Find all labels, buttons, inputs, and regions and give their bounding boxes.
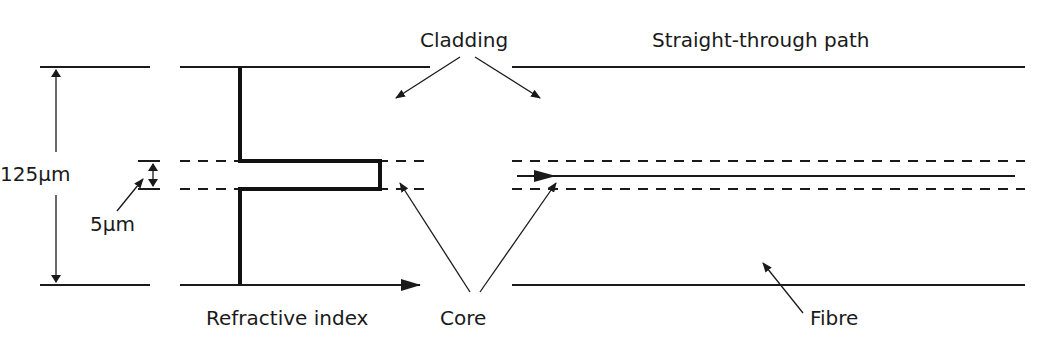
core-annotation: Core xyxy=(400,183,556,330)
cladding-arrow-left-icon xyxy=(396,57,460,98)
fibre-pointer-arrow-icon xyxy=(763,263,803,313)
straight-through-path-label: Straight-through path xyxy=(652,28,869,52)
refractive-index-label: Refractive index xyxy=(206,306,369,330)
light-direction-arrow-icon xyxy=(534,170,556,182)
cladding-label: Cladding xyxy=(420,28,508,52)
fibre-section: Straight-through path Fibre xyxy=(512,28,1025,330)
core-dim-pointer-icon xyxy=(117,179,143,211)
cladding-arrow-right-icon xyxy=(475,57,540,98)
outer-diameter-dimension: 125μm xyxy=(0,67,150,285)
outer-diameter-label: 125μm xyxy=(0,162,70,186)
index-step-profile xyxy=(240,67,380,285)
core-label: Core xyxy=(440,306,486,330)
core-arrow-right-icon xyxy=(480,183,556,292)
refractive-index-profile: Refractive index xyxy=(180,67,432,330)
cladding-annotation: Cladding xyxy=(396,28,540,98)
core-diameter-dimension: 5μm xyxy=(90,161,160,236)
core-arrow-left-icon xyxy=(400,183,470,292)
core-diameter-label: 5μm xyxy=(90,212,135,236)
fibre-label: Fibre xyxy=(810,306,858,330)
fibre-diagram: 125μm 5μm Refractive index Cladding Core… xyxy=(0,0,1053,338)
